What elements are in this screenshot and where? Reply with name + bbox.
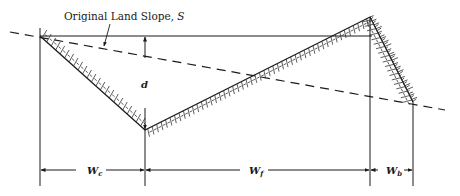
back-slope-vegetation (370, 16, 417, 102)
slope-label-leader (104, 24, 110, 46)
back-width-label: Wb (386, 165, 402, 178)
channel-width-label: Wc (87, 165, 103, 178)
front-width-label: Wf (249, 165, 265, 178)
depth-label: d (141, 79, 148, 90)
terrace-profile (40, 17, 413, 130)
cut-slope-hatching (42, 30, 146, 126)
original-land-slope-label: Original Land Slope, S (64, 10, 185, 22)
terrace-cross-section-diagram: d Original Land Slope, S Wc Wf Wb (0, 0, 460, 196)
original-land-slope-line (10, 32, 445, 110)
